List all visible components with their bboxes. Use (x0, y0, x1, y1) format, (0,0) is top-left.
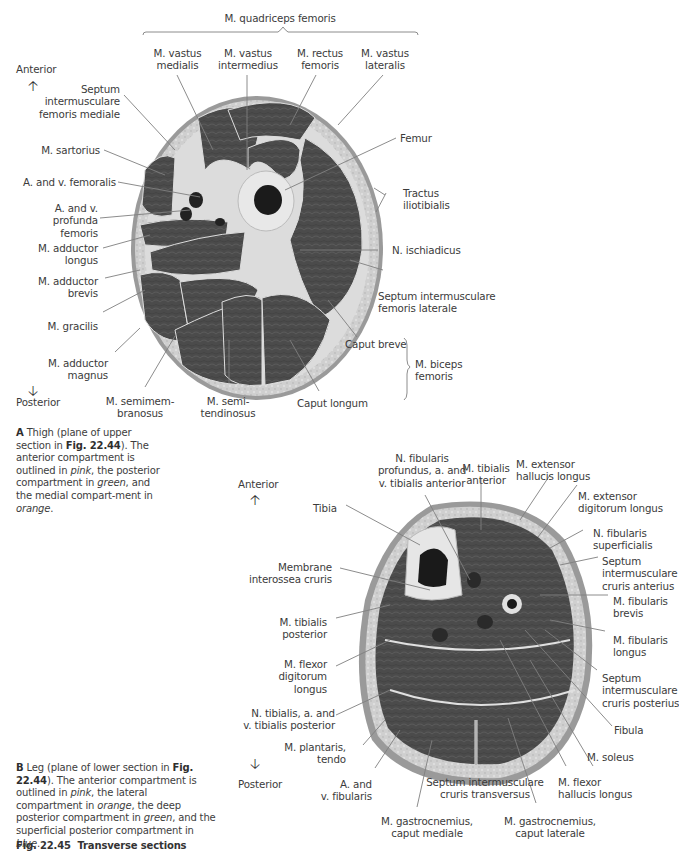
thigh-anterior-label: Anterior (16, 63, 56, 75)
label-septum-mediale: Septum intermusculare femoris mediale (20, 83, 120, 120)
caption-thigh: A Thigh (plane of upper section in Fig. … (16, 427, 164, 515)
label-rectus-femoris: M. rectus femoris (290, 47, 350, 72)
label-n-tibialis: N. tibialis, a. and v. tibialis posterio… (240, 707, 335, 732)
label-ischiadicus: N. ischiadicus (392, 244, 461, 256)
label-membrane-interossea: Membrane interossea cruris (240, 561, 332, 586)
label-extensor-digitorum: M. extensor digitorum longus (578, 490, 663, 515)
caption-leg: B Leg (plane of lower section in Fig. 22… (16, 762, 216, 850)
label-gastrocnemius-mediale: M. gastrocnemius, caput mediale (372, 815, 482, 840)
label-adductor-magnus: M. adductor magnus (30, 357, 108, 382)
label-femur: Femur (400, 132, 432, 144)
label-a-fibularis: A. and v. fibularis (310, 778, 372, 803)
leg-anterior-label: Anterior (238, 478, 278, 490)
leg-posterior-label: Posterior (238, 778, 282, 790)
label-sartorius: M. sartorius (20, 144, 100, 156)
label-caput-longum: Caput longum (297, 397, 368, 409)
arrow-up-icon: 🡡 (250, 490, 260, 514)
label-tibia: Tibia (313, 502, 337, 514)
label-extensor-hallucis: M. extensor hallucis longus (516, 458, 590, 483)
figure-title: Fig. 22.45 Transverse sections (16, 840, 266, 853)
label-quadriceps-femoris: M. quadriceps femoris (220, 12, 340, 24)
label-adductor-brevis: M. adductor brevis (20, 275, 98, 300)
arrow-down-icon: 🡣 (250, 753, 260, 777)
label-profunda: A. and v. profunda femoris (20, 202, 98, 239)
label-vastus-intermedius: M. vastus intermedius (208, 47, 288, 72)
label-fibula: Fibula (614, 724, 643, 736)
label-flexor-hallucis: M. flexor hallucis longus (558, 776, 632, 801)
label-semitendinosus: M. semi- tendinosus (193, 395, 263, 420)
label-septum-posterius: Septum intermusculare cruris posterius (602, 672, 679, 709)
label-gracilis: M. gracilis (20, 320, 98, 332)
label-tractus-iliotibialis: Tractus iliotibialis (403, 187, 450, 212)
label-tibialis-posterior: M. tibialis posterior (260, 616, 327, 641)
label-vastus-lateralis: M. vastus lateralis (355, 47, 415, 72)
label-flexor-digitorum: M. flexor digitorum longus (260, 658, 327, 695)
label-semimembranosus: M. semimem- branosus (100, 395, 180, 420)
thigh-posterior-label: Posterior (16, 396, 60, 408)
label-fibularis-superficialis: N. fibularis superficialis (593, 527, 652, 552)
label-soleus: M. soleus (587, 751, 634, 763)
label-fibularis-longus: M. fibularis longus (613, 634, 668, 659)
label-gastrocnemius-laterale: M. gastrocnemius, caput laterale (495, 815, 605, 840)
label-biceps-femoris: M. biceps femoris (415, 358, 462, 383)
label-septum-transversus: Septum intermusculare cruris transversus (420, 776, 550, 801)
label-tibialis-anterior: M. tibialis anterior (456, 462, 516, 487)
label-fibularis-brevis: M. fibularis brevis (613, 595, 668, 620)
label-caput-breve: Caput breve (345, 338, 407, 350)
label-vastus-medialis: M. vastus medialis (140, 47, 215, 72)
label-plantaris: M. plantaris, tendo (270, 741, 346, 766)
thigh-section (131, 96, 383, 400)
label-septum-laterale: Septum intermusculare femoris laterale (378, 290, 496, 315)
label-adductor-longus: M. adductor longus (20, 242, 98, 267)
label-femoralis: A. and v. femoralis (10, 176, 116, 188)
label-septum-anterius: Septum intermusculare cruris anterius (602, 555, 677, 592)
